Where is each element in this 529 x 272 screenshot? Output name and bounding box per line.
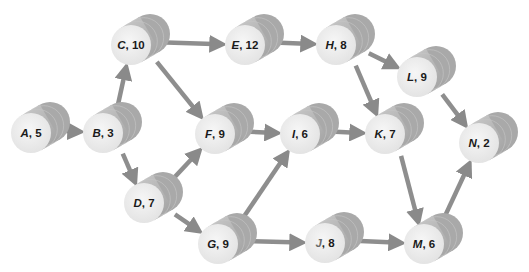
node-duration: , 6: [422, 238, 435, 250]
node-duration: , 3: [101, 127, 114, 139]
edge-g-j: [253, 241, 301, 242]
node-duration: , 2: [477, 137, 490, 149]
edge-f-i: [250, 132, 276, 133]
node-label: N, 2: [468, 137, 489, 149]
node-label: K, 7: [374, 128, 395, 140]
node-activity-letter: A: [19, 127, 28, 139]
node-duration: , 8: [322, 237, 335, 249]
node-activity-letter: M: [413, 238, 423, 250]
edge-b-d: [123, 154, 135, 181]
node-label: I, 6: [292, 128, 308, 140]
node-n: N, 2: [459, 112, 518, 163]
edge-j-m: [360, 241, 400, 243]
edge-k-m: [401, 156, 418, 221]
edge-i-k: [335, 132, 361, 133]
node-m: M, 6: [404, 213, 463, 264]
edge-h-k: [356, 66, 376, 112]
node-duration: , 12: [239, 39, 258, 51]
node-h: H, 8: [316, 14, 375, 65]
edge-d-g: [175, 214, 198, 230]
node-label: M, 6: [413, 238, 435, 250]
edge-g-i: [242, 154, 286, 219]
node-label: B, 3: [92, 127, 113, 139]
edge-b-c: [118, 68, 126, 104]
node-duration: , 7: [383, 128, 396, 140]
node-label: J, 8: [315, 237, 335, 249]
edge-a-b: [66, 131, 79, 132]
edge-m-n: [444, 165, 468, 217]
node-label: A, 5: [19, 127, 42, 139]
node-j: J, 8: [305, 212, 364, 263]
node-duration: , 6: [295, 128, 308, 140]
node-g: G, 9: [198, 213, 257, 264]
node-duration: , 10: [126, 39, 145, 51]
node-activity-letter: G: [207, 238, 216, 250]
node-l: L, 9: [397, 46, 456, 97]
node-f: F, 9: [195, 103, 254, 154]
node-duration: , 9: [414, 71, 427, 83]
edge-h-l: [369, 53, 396, 66]
node-label: H, 8: [325, 39, 347, 51]
node-i: I, 6: [280, 103, 339, 154]
node-duration: , 7: [142, 197, 155, 209]
edge-c-f: [157, 62, 200, 115]
network-diagram: A, 5B, 3C, 10D, 7E, 12F, 9G, 9H, 8I, 6J,…: [0, 0, 529, 272]
node-duration: , 8: [334, 39, 347, 51]
node-activity-letter: L: [407, 71, 414, 83]
nodes-layer: A, 5B, 3C, 10D, 7E, 12F, 9G, 9H, 8I, 6J,…: [11, 14, 518, 264]
node-activity-letter: B: [92, 127, 100, 139]
edge-c-e: [166, 43, 221, 45]
node-duration: , 9: [212, 128, 225, 140]
node-duration: , 5: [29, 127, 42, 139]
node-activity-letter: D: [133, 197, 141, 209]
node-label: E, 12: [232, 39, 259, 51]
node-duration: , 9: [216, 238, 229, 250]
node-label: L, 9: [407, 71, 427, 83]
edge-e-h: [280, 43, 312, 44]
node-a: A, 5: [11, 102, 70, 153]
node-label: F, 9: [205, 128, 225, 140]
node-label: D, 7: [133, 197, 154, 209]
node-label: G, 9: [207, 238, 229, 250]
node-e: E, 12: [225, 14, 284, 65]
node-label: C, 10: [117, 39, 145, 51]
edge-l-n: [442, 94, 464, 123]
node-b: B, 3: [83, 102, 142, 153]
node-c: C, 10: [111, 14, 170, 65]
